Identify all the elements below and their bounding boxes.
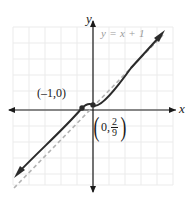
axis-label-y: y: [86, 11, 92, 27]
solid-curve: [18, 35, 161, 173]
fraction-denominator: 9: [111, 127, 118, 139]
point-label-zero-two-ninths: ( 0, 2 9 ): [92, 114, 128, 141]
fraction-two-ninths: 2 9: [111, 117, 118, 139]
point-label-prefix: 0,: [101, 120, 110, 135]
right-paren: ): [121, 114, 127, 141]
point-minus-one-zero: [79, 105, 84, 110]
equation-label: y = x + 1: [101, 27, 145, 39]
y-axis-arrow-down: [90, 186, 96, 193]
x-axis-arrow-left: [8, 107, 15, 113]
left-paren: (: [94, 114, 100, 141]
coordinate-plane-svg: [0, 0, 195, 201]
fraction-numerator: 2: [111, 117, 118, 128]
axis-label-x: x: [179, 101, 185, 117]
graph-figure: y x y = x + 1 (–1,0) ( 0, 2 9 ): [0, 0, 195, 201]
point-zero-two-ninths: [90, 102, 95, 107]
point-label-minus-one-zero: (–1,0): [37, 86, 66, 101]
